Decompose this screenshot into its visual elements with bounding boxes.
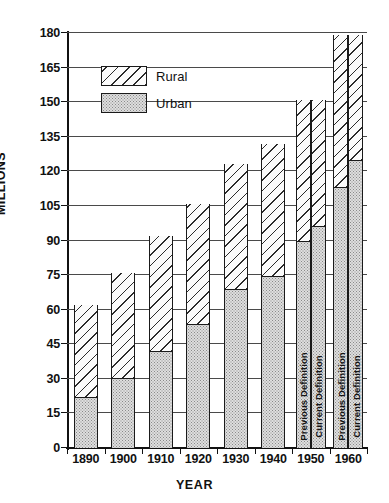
bar-segment-urban: Current Definition <box>312 226 325 448</box>
y-tick-mark <box>61 101 67 102</box>
y-axis-tick-labels: 0153045607590105120135150165180 <box>18 33 60 448</box>
y-tick-label: 180 <box>20 26 60 40</box>
y-tick-mark <box>61 32 67 33</box>
y-tick-label: 45 <box>20 337 60 351</box>
bar-segment-urban <box>187 324 209 449</box>
bar-segment-rural <box>262 144 284 277</box>
x-tick-label: 1900 <box>110 452 137 466</box>
y-axis-title: MILLIONS <box>0 152 8 215</box>
bar-segment-rural <box>150 236 172 351</box>
x-tick-label: 1940 <box>260 452 287 466</box>
y-tick-label: 105 <box>20 199 60 213</box>
x-tick-label: 1890 <box>72 452 99 466</box>
y-tick-mark <box>61 343 67 344</box>
bar-segment-rural <box>349 35 362 160</box>
legend-swatch-rural-icon <box>101 66 147 86</box>
population-stacked-bar-chart: 0153045607590105120135150165180 MILLIONS… <box>0 0 389 503</box>
bar-segment-urban <box>150 351 172 448</box>
x-tick-label: 1950 <box>297 452 324 466</box>
x-axis-title: YEAR <box>0 478 389 492</box>
y-tick-label: 165 <box>20 61 60 75</box>
bar-group-1890 <box>74 33 98 448</box>
chart-legend: Rural Urban <box>101 66 192 113</box>
y-tick-mark <box>61 412 67 413</box>
y-tick-label: 135 <box>20 130 60 144</box>
legend-label-urban: Urban <box>156 96 192 111</box>
bar-group-1940 <box>261 33 285 448</box>
bar: Previous Definition <box>333 35 348 448</box>
bar: Previous Definition <box>296 100 311 448</box>
bar-segment-rural <box>112 273 134 378</box>
bar <box>261 144 285 448</box>
y-tick-label: 60 <box>20 303 60 317</box>
bar-segment-urban <box>262 276 284 448</box>
bar <box>111 273 135 448</box>
legend-item-rural: Rural <box>101 66 192 86</box>
bar <box>224 164 248 448</box>
bar-segment-urban: Previous Definition <box>334 187 347 448</box>
y-tick-mark <box>61 378 67 379</box>
y-tick-label: 150 <box>20 95 60 109</box>
y-tick-mark <box>61 67 67 68</box>
bar-group-1950: Previous DefinitionCurrent Definition <box>296 33 326 448</box>
y-tick-mark <box>61 274 67 275</box>
legend-swatch-urban-icon <box>101 93 147 113</box>
bar-group-1960: Previous DefinitionCurrent Definition <box>333 33 363 448</box>
x-tick-label: 1930 <box>222 452 249 466</box>
bar-group-1930 <box>224 33 248 448</box>
bar: Current Definition <box>311 100 326 448</box>
bar-segment-rural <box>187 204 209 324</box>
legend-item-urban: Urban <box>101 93 192 113</box>
y-tick-mark <box>61 170 67 171</box>
bar-segment-rural <box>225 164 247 289</box>
bar-definition-label: Previous Definition <box>335 352 346 440</box>
y-tick-mark <box>61 205 67 206</box>
bar-definition-label: Previous Definition <box>298 352 309 440</box>
x-axis-tick-labels: 18901900191019201930194019501960 <box>67 452 367 472</box>
bar <box>149 236 173 448</box>
x-tick-label: 1910 <box>147 452 174 466</box>
bar-segment-rural <box>297 100 310 241</box>
y-tick-label: 0 <box>20 441 60 455</box>
bar-segment-urban <box>225 289 247 448</box>
bar-segment-urban <box>112 378 134 448</box>
x-tick-label: 1920 <box>185 452 212 466</box>
y-tick-label: 90 <box>20 234 60 248</box>
y-tick-mark <box>61 240 67 241</box>
y-tick-label: 75 <box>20 268 60 282</box>
bar-segment-urban <box>75 397 97 448</box>
bar-segment-rural <box>334 35 347 187</box>
bar-definition-label: Current Definition <box>313 355 324 438</box>
y-tick-label: 30 <box>20 372 60 386</box>
legend-label-rural: Rural <box>156 69 188 84</box>
y-tick-mark <box>61 309 67 310</box>
y-tick-label: 120 <box>20 164 60 178</box>
bar: Current Definition <box>348 35 363 448</box>
x-tick-mark <box>367 447 368 454</box>
x-tick-label: 1960 <box>335 452 362 466</box>
bar-definition-label: Current Definition <box>350 355 361 438</box>
bar-segment-urban: Current Definition <box>349 160 362 448</box>
bar-segment-urban: Previous Definition <box>297 241 310 449</box>
bar <box>74 305 98 448</box>
bar <box>186 204 210 448</box>
bar-segment-rural <box>312 100 325 226</box>
y-tick-mark <box>61 136 67 137</box>
bar-segment-rural <box>75 305 97 397</box>
y-tick-label: 15 <box>20 406 60 420</box>
